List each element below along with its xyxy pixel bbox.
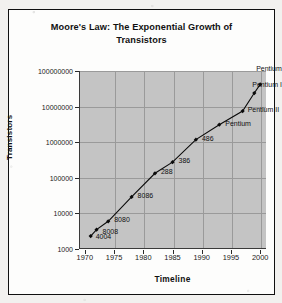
data-point-label: 8080 [114, 216, 130, 223]
data-point-label: Pentium II [248, 106, 280, 113]
data-series-line [9, 10, 276, 296]
series-polyline [91, 84, 260, 236]
data-point-label: Pentium 4 [256, 65, 282, 72]
data-point-label: 288 [161, 168, 173, 175]
data-point-label: 8008 [103, 228, 119, 235]
data-point-label: Pentium III [252, 81, 282, 88]
data-point-label: 386 [179, 157, 191, 164]
data-point-label: 486 [202, 135, 214, 142]
data-point-label: Pentium [225, 120, 251, 127]
plot-wrapper: Transistors 1000100001000001000000100000… [9, 10, 276, 296]
chart-card: Moore's Law: The Exponential Growth of T… [8, 9, 275, 295]
data-point-label: 8086 [138, 192, 154, 199]
